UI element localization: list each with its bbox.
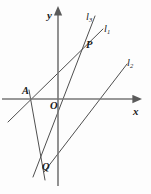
- line-label-l3: l3: [86, 12, 92, 23]
- figure-canvas: [0, 0, 151, 194]
- line-label-l1: l1: [104, 24, 110, 35]
- y-axis-label: y: [47, 10, 52, 21]
- x-axis-label: x: [133, 106, 139, 117]
- line-l2: [44, 64, 127, 172]
- point-label-a: A: [22, 86, 29, 97]
- point-label-o: O: [50, 101, 58, 112]
- line-label-l3-sub: 3: [89, 16, 92, 23]
- point-label-q: Q: [42, 162, 50, 173]
- point-label-p: P: [86, 40, 92, 51]
- geometry-figure: x y A O P Q l1 l3 l2: [0, 0, 151, 194]
- line-label-l2-sub: 2: [130, 62, 133, 69]
- line-label-l1-sub: 1: [107, 28, 110, 35]
- line-label-l2: l2: [127, 58, 133, 69]
